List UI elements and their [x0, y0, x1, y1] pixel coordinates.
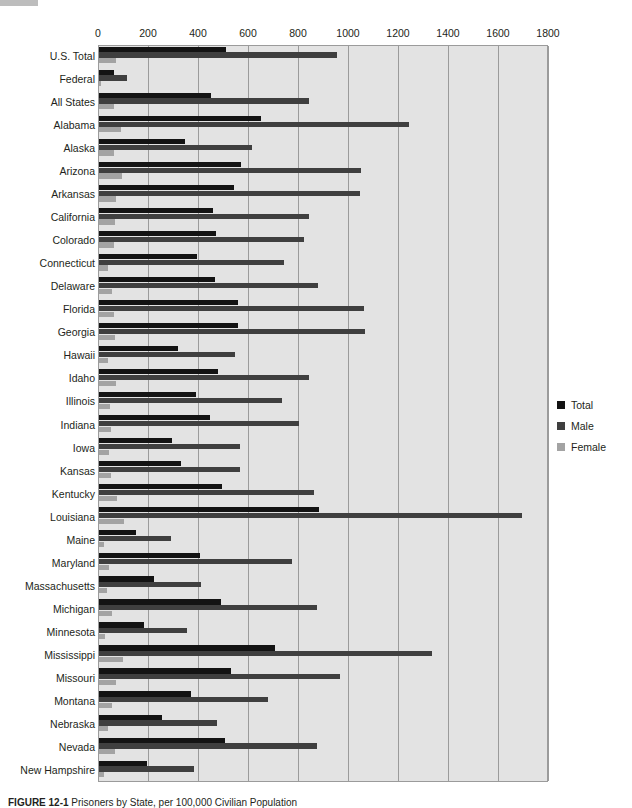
bar-group: Delaware	[0, 275, 632, 298]
bar-male	[99, 398, 282, 403]
chart-legend: TotalMaleFemale	[557, 396, 606, 459]
bar-group: Maryland	[0, 552, 632, 575]
bar-group: Montana	[0, 690, 632, 713]
bar-female	[99, 680, 116, 685]
x-tick-1200: 1200	[386, 27, 409, 40]
bar-total	[99, 369, 218, 374]
x-tick-400: 400	[189, 27, 207, 40]
bar-group: New Hampshire	[0, 759, 632, 782]
x-tick-1600: 1600	[486, 27, 509, 40]
legend-label: Total	[571, 399, 593, 411]
bar-female	[99, 219, 115, 224]
bar-female	[99, 150, 114, 155]
bar-female	[99, 772, 104, 777]
legend-item: Female	[557, 438, 606, 455]
bar-total	[99, 622, 144, 627]
bar-female	[99, 358, 108, 363]
bar-male	[99, 168, 361, 173]
category-label: Minnesota	[47, 626, 95, 638]
bar-total	[99, 323, 238, 328]
bar-group: U.S. Total	[0, 45, 632, 68]
bar-total	[99, 346, 178, 351]
x-axis-tick-labels: 020040060080010001200140016001800	[0, 27, 632, 43]
bar-group: Idaho	[0, 367, 632, 390]
bar-male	[99, 237, 304, 242]
x-tick-1800: 1800	[536, 27, 559, 40]
bar-total	[99, 392, 196, 397]
category-label: Montana	[54, 695, 95, 707]
bar-male	[99, 260, 284, 265]
bar-female	[99, 265, 108, 270]
category-label: Hawaii	[63, 349, 95, 361]
bar-female	[99, 749, 115, 754]
bar-male	[99, 720, 217, 725]
category-label: California	[51, 211, 95, 223]
bar-total	[99, 738, 225, 743]
bar-female	[99, 519, 124, 524]
category-label: Michigan	[53, 603, 95, 615]
prisoners-bar-chart: 020040060080010001200140016001800 U.S. T…	[0, 0, 632, 790]
bar-male	[99, 75, 127, 80]
category-label: Iowa	[73, 442, 95, 454]
legend-item: Male	[557, 417, 606, 434]
bar-female	[99, 611, 112, 616]
bar-male	[99, 559, 292, 564]
bar-total	[99, 668, 231, 673]
bar-male	[99, 145, 252, 150]
bar-group: California	[0, 206, 632, 229]
bar-female	[99, 81, 101, 86]
figure-caption-text: Prisoners by State, per 100,000 Civilian…	[71, 797, 297, 808]
bar-group: Kentucky	[0, 483, 632, 506]
category-label: Kansas	[60, 465, 95, 477]
bar-male	[99, 628, 187, 633]
bar-total	[99, 415, 210, 420]
bar-male	[99, 421, 299, 426]
category-label: Nebraska	[50, 718, 95, 730]
bar-male	[99, 375, 309, 380]
bar-female	[99, 634, 105, 639]
bar-total	[99, 185, 234, 190]
bar-male	[99, 766, 194, 771]
bar-group: Missouri	[0, 667, 632, 690]
bar-female	[99, 588, 107, 593]
bar-group: Federal	[0, 68, 632, 91]
legend-label: Female	[571, 441, 606, 453]
bar-total	[99, 576, 154, 581]
bar-female	[99, 196, 116, 201]
bar-male	[99, 191, 360, 196]
bar-female	[99, 473, 111, 478]
bar-group: Illinois	[0, 390, 632, 413]
bar-female	[99, 127, 121, 132]
bar-total	[99, 300, 238, 305]
x-tick-1000: 1000	[336, 27, 359, 40]
category-label: Alabama	[54, 119, 95, 131]
legend-swatch-male-icon	[557, 422, 565, 430]
category-label: Georgia	[58, 326, 95, 338]
legend-swatch-total-icon	[557, 401, 565, 409]
bar-group: Alaska	[0, 137, 632, 160]
bar-total	[99, 438, 172, 443]
category-label: Maryland	[52, 557, 95, 569]
bar-group: Louisiana	[0, 506, 632, 529]
x-tick-0: 0	[95, 27, 101, 40]
category-label: Arkansas	[51, 188, 95, 200]
bar-female	[99, 404, 110, 409]
bar-male	[99, 513, 522, 518]
category-label: Florida	[63, 303, 95, 315]
bar-male	[99, 329, 365, 334]
bar-total	[99, 70, 114, 75]
bar-group: Nebraska	[0, 713, 632, 736]
bar-group: All States	[0, 91, 632, 114]
figure-caption: FIGURE 12-1 Prisoners by State, per 100,…	[8, 797, 628, 808]
category-label: Louisiana	[50, 511, 95, 523]
bar-group: Mississippi	[0, 644, 632, 667]
bar-group: Michigan	[0, 598, 632, 621]
category-label: Mississippi	[44, 649, 95, 661]
bar-total	[99, 231, 216, 236]
bar-female	[99, 173, 122, 178]
bar-group: Connecticut	[0, 252, 632, 275]
category-label: Indiana	[61, 419, 95, 431]
bar-male	[99, 52, 337, 57]
category-label: Federal	[59, 73, 95, 85]
